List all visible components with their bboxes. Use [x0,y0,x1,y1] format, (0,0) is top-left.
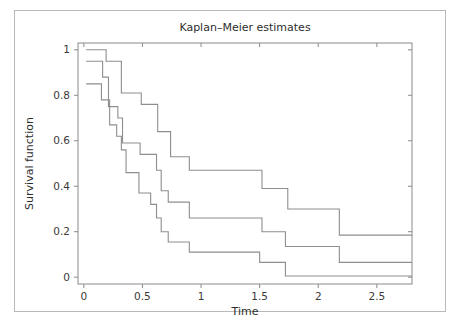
x-tick-label-3: 1.5 [251,290,268,302]
figure-caption [0,317,462,329]
figure-container: 00.511.522.500.20.40.60.81Kaplan–Meier e… [0,0,462,330]
y-tick-label-4: 0.8 [53,89,70,101]
axes-box [78,43,412,284]
x-tick-label-1: 0.5 [134,290,151,302]
y-axis-title: Survival function [23,117,36,210]
kaplan-meier-plot: 00.511.522.500.20.40.60.81Kaplan–Meier e… [0,0,462,330]
x-tick-label-4: 2 [315,290,322,302]
chart-title: Kaplan–Meier estimates [179,21,311,34]
x-tick-label-0: 0 [81,290,88,302]
curve-survival-estimate [86,61,412,262]
x-tick-label-5: 2.5 [368,290,385,302]
y-tick-label-3: 0.6 [53,134,70,146]
curve-upper-confidence-band [86,50,412,235]
y-tick-label-5: 1 [63,43,70,55]
y-tick-label-2: 0.4 [53,180,70,192]
curve-lower-confidence-band [86,84,412,276]
y-tick-label-0: 0 [63,271,70,283]
x-tick-label-2: 1 [198,290,205,302]
y-tick-label-1: 0.2 [53,225,70,237]
